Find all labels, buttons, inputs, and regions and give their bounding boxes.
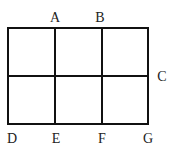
label-d: D bbox=[7, 131, 17, 146]
label-f: F bbox=[98, 131, 106, 146]
grid-lines bbox=[8, 28, 148, 124]
label-g: G bbox=[143, 131, 153, 146]
label-a: A bbox=[50, 10, 61, 25]
grid-diagram: A B C D E F G bbox=[0, 0, 171, 149]
label-c: C bbox=[157, 69, 166, 84]
label-e: E bbox=[52, 131, 61, 146]
label-b: B bbox=[95, 10, 104, 25]
